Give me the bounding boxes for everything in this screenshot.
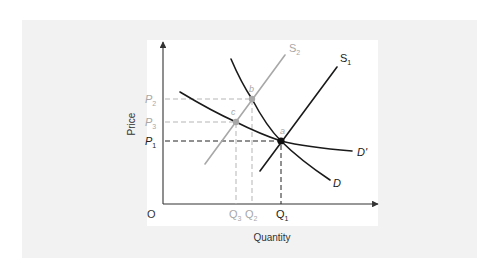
axes (163, 42, 378, 204)
point-label-c: c (231, 107, 236, 117)
curve-label-d-prime: D' (357, 146, 368, 158)
y-tick-p2: P2 (145, 93, 156, 107)
x-tick-q2: Q2 (245, 208, 258, 222)
curve-label-s2: S2 (289, 42, 300, 56)
origin-label: O (147, 208, 156, 220)
point-a (277, 137, 284, 144)
point-label-b: b (249, 84, 254, 94)
x-axis-title: Quantity (253, 232, 290, 243)
point-b (249, 96, 255, 102)
supply-curve-s2 (205, 55, 285, 164)
y-tick-labels: P2 P3 P1 (145, 93, 156, 149)
supply-demand-diagram: b c a S2 S1 D' D P2 P3 P1 Q3 Q2 Q1 O Qua… (0, 0, 503, 278)
curves (180, 55, 352, 180)
guide-p3-q3 (165, 122, 236, 204)
y-axis-title: Price (126, 112, 137, 135)
x-tick-labels: Q3 Q2 Q1 (229, 208, 289, 222)
x-tick-q1: Q1 (276, 208, 289, 222)
y-tick-p1: P1 (145, 135, 156, 149)
guide-p2-q2 (165, 99, 252, 204)
guide-p1-q1 (165, 141, 281, 204)
supply-curve-s1 (260, 67, 337, 171)
x-tick-q3: Q3 (229, 208, 242, 222)
guide-lines (165, 99, 281, 204)
point-label-a: a (280, 126, 285, 136)
point-c (233, 119, 239, 125)
curve-label-s1: S1 (340, 52, 351, 66)
curve-label-d: D (333, 177, 341, 189)
y-tick-p3: P3 (145, 116, 156, 130)
